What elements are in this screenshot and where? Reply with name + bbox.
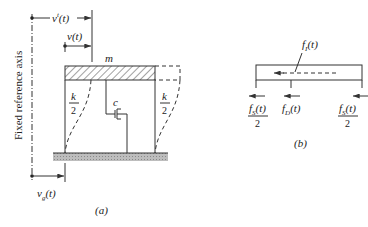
damper: c (106, 80, 127, 153)
inertia-force-label: fI(t) (302, 38, 318, 53)
inertia-leader-line (295, 53, 302, 72)
mass-girder (65, 66, 155, 80)
right-stiffness-label: k 2 (160, 90, 170, 116)
svg-text:2: 2 (255, 118, 260, 129)
caption-b: (b) (294, 137, 307, 150)
svg-text:2: 2 (162, 105, 167, 116)
damper-label: c (113, 96, 118, 108)
ground (53, 153, 168, 161)
svg-text:fS(t): fS(t) (249, 102, 266, 117)
free-body-mass (256, 65, 362, 80)
diagram-canvas: Fixed reference axis vt(t) v(t) m k (0, 0, 368, 227)
figure-b: fI(t) fS(t) 2 fD(t) fS(t) (248, 38, 368, 150)
spring-force-left-label: fS(t) 2 (248, 102, 268, 129)
relative-disp-label: v(t) (67, 30, 83, 43)
svg-text:fS(t): fS(t) (339, 102, 356, 117)
displaced-girder-outline (155, 66, 180, 80)
total-disp-label: vt(t) (52, 11, 70, 25)
damping-force-label: fD(t) (282, 102, 301, 117)
svg-text:k: k (162, 90, 168, 102)
caption-a: (a) (95, 204, 108, 217)
fixed-reference-axis-label: Fixed reference axis (12, 51, 24, 140)
left-stiffness-label: k 2 (69, 90, 79, 116)
figure-a: Fixed reference axis vt(t) v(t) m k (12, 10, 180, 217)
svg-text:2: 2 (71, 105, 76, 116)
right-column-deflected (155, 80, 180, 153)
svg-text:2: 2 (345, 118, 350, 129)
mass-label: m (105, 52, 113, 64)
ground-disp-label: vg(t) (37, 187, 56, 202)
svg-text:k: k (71, 90, 77, 102)
left-column-deflected (65, 80, 91, 153)
spring-force-right-label: fS(t) 2 (338, 102, 358, 129)
